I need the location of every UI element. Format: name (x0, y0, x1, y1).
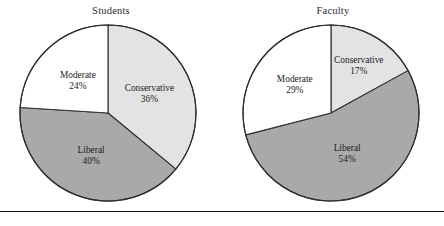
pie-chart-figure: Students Conservative 36% Liberal 40% Mo… (0, 0, 444, 226)
pie-svg-students (0, 0, 222, 214)
pie-slice-moderate (20, 25, 108, 113)
pie-chart-faculty: Faculty Conservative 17% Liberal 54% Mod… (222, 0, 444, 214)
pie-svg-faculty (222, 0, 444, 214)
horizontal-rule (0, 211, 444, 212)
pie-chart-students: Students Conservative 36% Liberal 40% Mo… (0, 0, 222, 214)
